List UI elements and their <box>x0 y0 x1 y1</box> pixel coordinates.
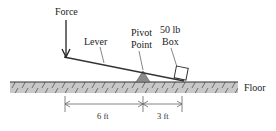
pivot-label-line1: Pivot <box>131 27 152 38</box>
pivot-label-line2: Point <box>131 39 152 50</box>
dimension-right-label: 3 ft <box>157 111 169 121</box>
floor <box>10 82 238 93</box>
dimension-left-label: 6 ft <box>97 111 109 121</box>
lever-bar <box>64 57 184 81</box>
box-leader-line <box>171 48 177 67</box>
lever-label: Lever <box>84 36 108 47</box>
pivot-leader-line <box>139 51 143 70</box>
force-arrow-icon <box>62 20 70 57</box>
box-label-line2: Box <box>162 36 179 47</box>
lever-leader-line <box>100 47 104 63</box>
box-label-line1: 50 lb <box>160 24 180 35</box>
lever-diagram: Floor Force Lever Pivot Point 50 lb Box … <box>0 0 276 131</box>
dimension-lines <box>65 96 182 112</box>
force-label: Force <box>55 6 78 17</box>
floor-label: Floor <box>244 82 266 93</box>
box <box>174 66 188 80</box>
